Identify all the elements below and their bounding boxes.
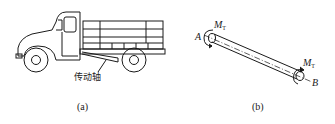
drive-shaft-label: 传动轴 [74,73,101,82]
truck-drawing [16,12,165,72]
moment-label-right: MT [303,58,315,69]
end-b-label: B [312,78,318,88]
moment-subscript: T [222,25,226,31]
diagram-canvas [0,0,335,124]
shaft-drawing [204,30,312,84]
moment-label-left: MT [214,20,226,31]
panel-b-caption: (b) [252,102,264,112]
moment-subscript: T [311,63,315,69]
end-a-label: A [195,32,201,42]
panel-a-caption: (a) [77,102,88,112]
